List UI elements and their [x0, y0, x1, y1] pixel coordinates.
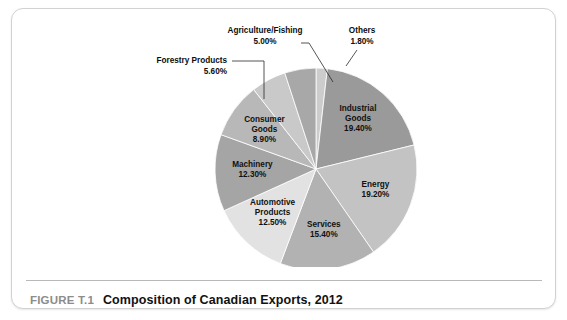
callout-label-forestry-products: Forestry Products5.60%: [156, 56, 227, 76]
figure-number: FIGURE T.1: [30, 294, 94, 306]
pie-chart-svg: IndustrialGoods19.40%Energy19.20%Service…: [12, 9, 555, 267]
leader-line-others: [346, 50, 357, 66]
figure-title: Composition of Canadian Exports, 2012: [103, 293, 343, 307]
caption-divider: [26, 280, 542, 281]
slice-label-industrial-goods: IndustrialGoods19.40%: [340, 104, 377, 133]
callout-label-others: Others1.80%: [349, 26, 376, 46]
slice-label-energy: Energy19.20%: [362, 180, 390, 199]
pie-chart: IndustrialGoods19.40%Energy19.20%Service…: [12, 9, 555, 267]
slice-label-services: Services15.40%: [307, 220, 341, 239]
callout-label-agriculture-fishing: Agriculture/Fishing5.00%: [227, 26, 302, 46]
figure-caption: FIGURE T.1 Composition of Canadian Expor…: [30, 290, 540, 310]
figure-card: IndustrialGoods19.40%Energy19.20%Service…: [11, 8, 556, 309]
callout-labels: Agriculture/Fishing5.00%Others1.80%Fores…: [156, 26, 375, 76]
